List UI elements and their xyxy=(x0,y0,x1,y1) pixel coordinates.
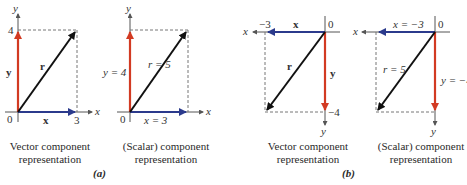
caption-b-scalar: (Scalar) component representation xyxy=(366,140,467,166)
y-vector-label: y⃗ xyxy=(6,66,20,78)
x-vector-label: x⃗ xyxy=(43,114,57,126)
x-vector-label: x⃗ xyxy=(293,18,307,30)
y-vector-label: y⃗ xyxy=(330,67,344,79)
x-axis-label: x xyxy=(205,105,211,117)
y-axis-label: y xyxy=(430,125,436,137)
caption-line: representation xyxy=(111,153,221,166)
part-label-a: (a) xyxy=(93,167,106,179)
resultant-arrow xyxy=(130,32,186,112)
y-scalar-label: y = 4 xyxy=(102,66,127,78)
caption-line: (Scalar) component xyxy=(111,140,221,153)
y-axis-label: y xyxy=(320,125,326,137)
panel-b-vector: y x 0 −3 −4 y⃗ x⃗ r⃗ xyxy=(242,16,344,137)
caption-a-scalar: (Scalar) component representation xyxy=(111,140,221,166)
part-label-b: (b) xyxy=(342,167,355,179)
origin-label: 0 xyxy=(7,113,13,125)
y-axis-label: y xyxy=(125,2,131,14)
panel-a-vector: y x 0 3 4 y⃗ x⃗ r⃗ xyxy=(5,2,100,126)
r-scalar-label: r = 5 xyxy=(148,58,171,70)
x-tick-label: −3 xyxy=(259,18,271,30)
x-scalar-label: x = 3 xyxy=(143,114,168,126)
caption-b-vector: Vector component representation xyxy=(253,140,363,166)
r-scalar-label: r = 5 xyxy=(383,63,406,75)
y-axis-label: y xyxy=(12,2,18,14)
origin-label: 0 xyxy=(328,18,334,30)
x-axis-label: x xyxy=(94,105,100,117)
caption-line: Vector component xyxy=(0,140,105,153)
x-axis-label: x xyxy=(242,25,248,37)
y-tick-label: −4 xyxy=(328,106,340,118)
y-tick-label: 4 xyxy=(8,24,14,36)
caption-line: representation xyxy=(253,153,363,166)
origin-label: 0 xyxy=(120,113,126,125)
origin-label: 0 xyxy=(438,18,444,30)
caption-line: representation xyxy=(366,153,467,166)
x-tick-label: 3 xyxy=(74,114,80,126)
panel-a-scalar: y x 0 y = 4 x = 3 r = 5 xyxy=(102,2,211,126)
x-axis-label: x xyxy=(352,25,358,37)
resultant-arrow xyxy=(18,32,75,112)
panel-b-scalar: y x 0 y = −4 x = −3 r = 5 xyxy=(352,16,467,137)
y-scalar-label: y = −4 xyxy=(440,74,467,86)
r-vector-label: r⃗ xyxy=(287,60,300,72)
caption-line: (Scalar) component xyxy=(366,140,467,153)
r-vector-label: r⃗ xyxy=(40,60,53,72)
caption-a-vector: Vector component representation xyxy=(0,140,105,166)
x-scalar-label: x = −3 xyxy=(392,18,424,30)
caption-line: Vector component xyxy=(253,140,363,153)
caption-line: representation xyxy=(0,153,105,166)
